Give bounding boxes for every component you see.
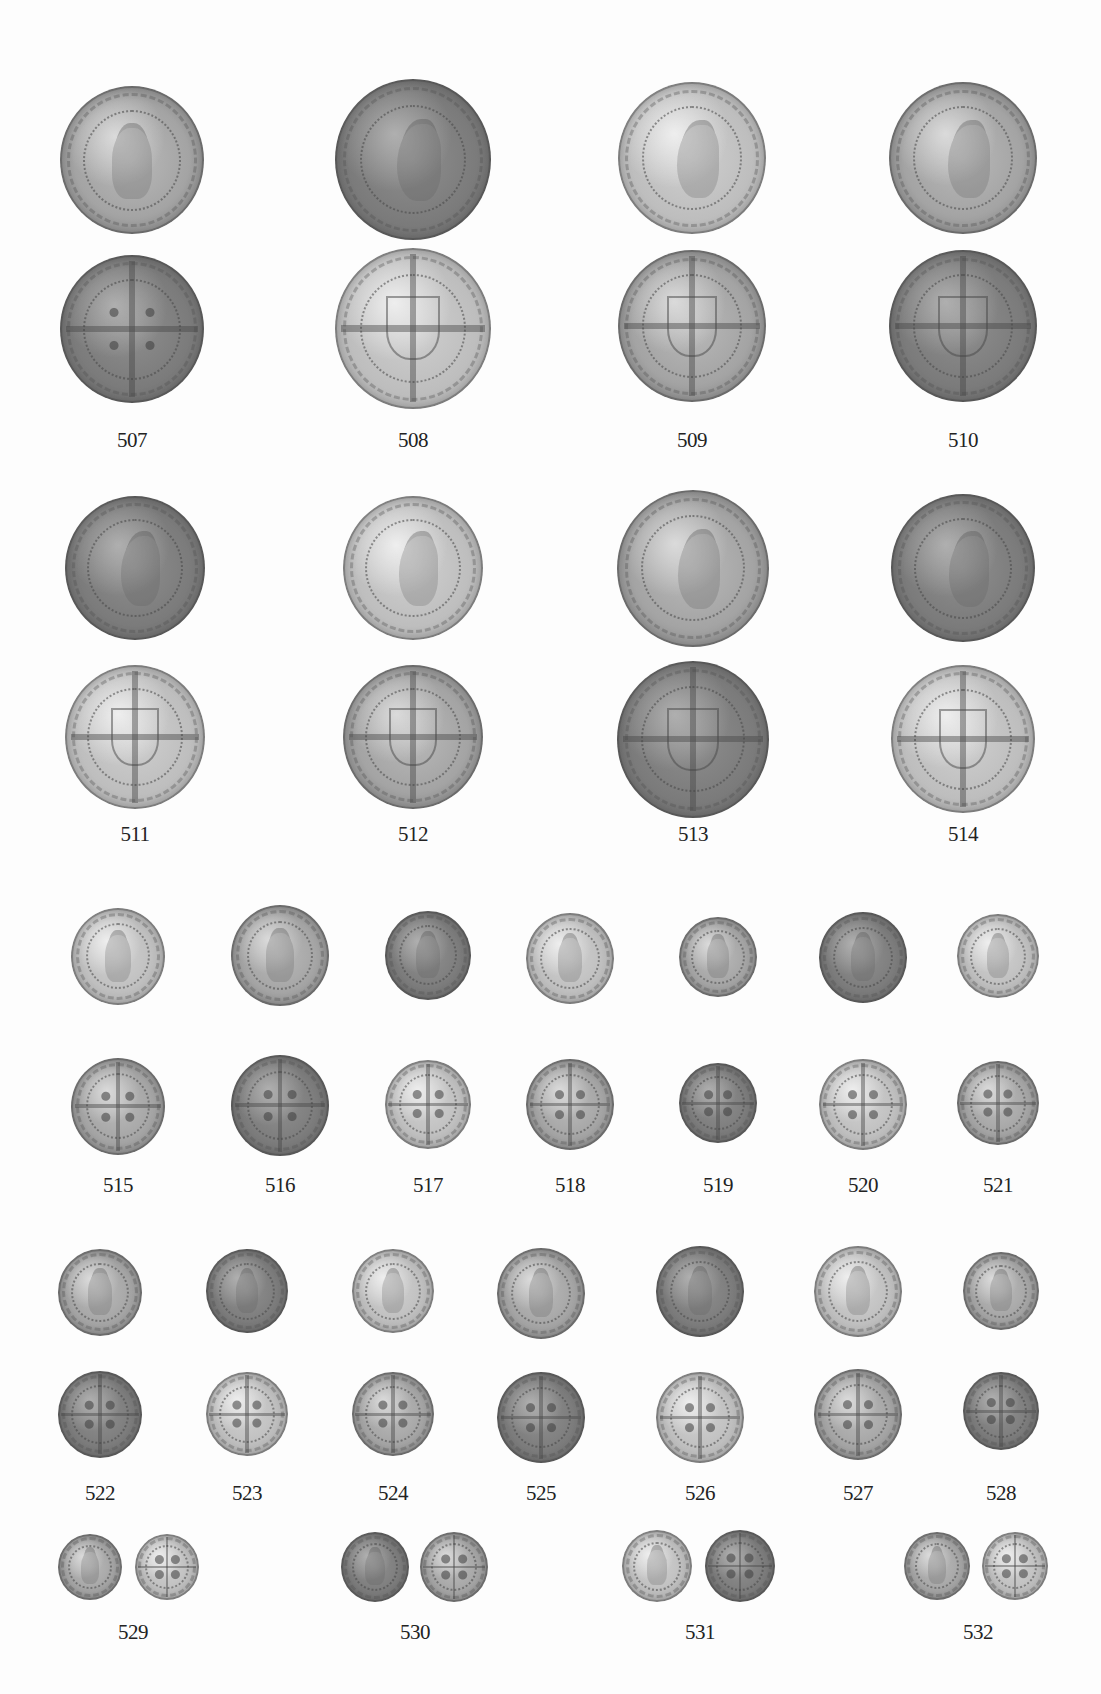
- pellets-icon: [833, 1389, 882, 1440]
- coin-obverse-image: [889, 82, 1037, 234]
- coin-reverse-image: [656, 1372, 744, 1463]
- coin-obverse-image: [656, 1246, 744, 1337]
- king-bust-icon: [948, 125, 989, 198]
- pellets-icon: [975, 1080, 1021, 1127]
- coin-obverse-image: [335, 79, 491, 240]
- coin-obverse-image: [352, 1249, 434, 1333]
- king-bust-icon: [382, 1273, 405, 1314]
- pellets-icon: [980, 1389, 1023, 1433]
- coin-number-label: 523: [207, 1481, 287, 1506]
- pellets-icon: [720, 1546, 759, 1586]
- king-bust-icon: [105, 935, 131, 981]
- coin-reverse-image: [814, 1369, 902, 1460]
- coin-reverse-image: [963, 1372, 1039, 1450]
- coin-obverse-image: [385, 911, 471, 1000]
- coin-obverse-image: [231, 905, 329, 1006]
- coin-reverse-image: [335, 248, 491, 409]
- coin-number-label: 527: [818, 1481, 898, 1506]
- king-bust-icon: [688, 1271, 713, 1315]
- coin-reverse-image: [891, 665, 1035, 813]
- coin-obverse-image: [526, 913, 614, 1004]
- coin-obverse-image: [71, 908, 165, 1005]
- coin-obverse-image: [617, 490, 769, 647]
- coin-number-label: 517: [388, 1173, 468, 1198]
- coin-obverse-image: [904, 1532, 970, 1600]
- coin-obverse-image: [957, 914, 1039, 998]
- pellets-icon: [545, 1079, 594, 1130]
- royal-arms-shield-icon: [389, 708, 437, 766]
- coin-reverse-image: [206, 1372, 288, 1456]
- royal-arms-shield-icon: [667, 296, 717, 357]
- coin-number-label: 518: [530, 1173, 610, 1198]
- coin-number-label: 528: [961, 1481, 1041, 1506]
- coin-number-label: 522: [60, 1481, 140, 1506]
- coin-number-label: 513: [653, 822, 733, 847]
- pellets-icon: [435, 1547, 473, 1586]
- royal-arms-shield-icon: [667, 708, 719, 771]
- royal-arms-shield-icon: [939, 709, 988, 768]
- king-bust-icon: [990, 1274, 1011, 1312]
- pellets-icon: [224, 1391, 270, 1438]
- coin-number-label: 529: [93, 1620, 173, 1645]
- coin-obverse-image: [497, 1248, 585, 1339]
- coin-obverse-image: [206, 1249, 288, 1333]
- coin-reverse-image: [352, 1372, 434, 1456]
- coin-reverse-image: [679, 1063, 757, 1143]
- coin-obverse-image: [60, 86, 204, 234]
- coin-obverse-image: [65, 496, 205, 640]
- king-bust-icon: [678, 534, 721, 609]
- coin-number-label: 509: [652, 428, 732, 453]
- coin-reverse-image: [60, 255, 204, 403]
- coin-number-label: 520: [823, 1173, 903, 1198]
- king-bust-icon: [81, 1552, 99, 1584]
- coin-obverse-image: [679, 917, 757, 997]
- pellets-icon: [404, 1079, 452, 1129]
- royal-arms-shield-icon: [386, 296, 439, 360]
- coin-number-label: 524: [353, 1481, 433, 1506]
- coin-number-label: 532: [938, 1620, 1018, 1645]
- coin-reverse-image: [957, 1061, 1039, 1145]
- coin-obverse-image: [58, 1249, 142, 1336]
- coin-obverse-image: [341, 1532, 409, 1602]
- portcullis-icon: [928, 1551, 946, 1584]
- coin-reverse-image: [618, 250, 766, 402]
- royal-arms-shield-icon: [111, 708, 159, 766]
- coin-plate: 5075085095105115125135145155165175185195…: [0, 0, 1101, 1694]
- coin-number-label: 512: [373, 822, 453, 847]
- pellets-icon: [838, 1079, 887, 1130]
- pellets-icon: [92, 288, 173, 371]
- king-bust-icon: [846, 1271, 871, 1315]
- king-bust-icon: [851, 937, 876, 981]
- king-bust-icon: [365, 1552, 384, 1586]
- king-bust-icon: [397, 124, 441, 201]
- king-bust-icon: [987, 938, 1010, 979]
- coin-obverse-image: [618, 82, 766, 234]
- coin-number-label: 507: [92, 428, 172, 453]
- coin-reverse-image: [705, 1530, 775, 1602]
- coin-obverse-image: [58, 1534, 122, 1600]
- coin-number-label: 511: [95, 822, 175, 847]
- coin-number-label: 516: [240, 1173, 320, 1198]
- king-bust-icon: [88, 1273, 112, 1315]
- coin-reverse-image: [497, 1372, 585, 1463]
- coin-number-label: 515: [78, 1173, 158, 1198]
- coin-reverse-image: [526, 1059, 614, 1150]
- coin-number-label: 508: [373, 428, 453, 453]
- coin-reverse-image: [135, 1534, 199, 1600]
- coin-reverse-image: [58, 1371, 142, 1458]
- coin-number-label: 530: [375, 1620, 455, 1645]
- coin-reverse-image: [420, 1532, 488, 1602]
- coin-obverse-image: [963, 1252, 1039, 1330]
- coin-reverse-image: [617, 661, 769, 818]
- coin-reverse-image: [65, 665, 205, 809]
- coin-number-label: 514: [923, 822, 1003, 847]
- coin-reverse-image: [982, 1532, 1048, 1600]
- pellets-icon: [76, 1390, 123, 1438]
- pellets-icon: [253, 1077, 308, 1134]
- king-bust-icon: [121, 536, 160, 605]
- king-bust-icon: [529, 1273, 554, 1317]
- pellets-icon: [696, 1081, 740, 1126]
- pellets-icon: [997, 1547, 1034, 1585]
- coin-number-label: 519: [678, 1173, 758, 1198]
- coin-number-label: 526: [660, 1481, 740, 1506]
